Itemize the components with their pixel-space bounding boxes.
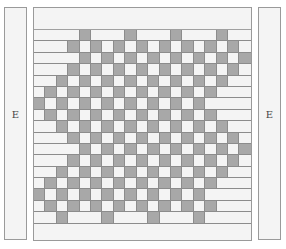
float-bar [205, 212, 251, 222]
white-cell [182, 189, 193, 199]
grey-cell [80, 121, 91, 131]
left-panel-label: E [5, 109, 26, 120]
grey-cell [68, 201, 79, 211]
grey-cell [91, 41, 102, 51]
white-cell [205, 76, 216, 86]
pattern-row [34, 121, 251, 132]
grey-cell [34, 189, 45, 199]
grey-cell [125, 189, 136, 199]
grey-cell [114, 64, 125, 74]
white-cell [125, 41, 136, 51]
white-cell [34, 178, 45, 188]
grey-cell [205, 201, 216, 211]
white-cell [171, 64, 182, 74]
right-panel-label: E [259, 109, 280, 120]
grey-cell [125, 98, 136, 108]
grey-cell [182, 87, 193, 97]
white-cell [171, 87, 182, 97]
white-cell [102, 64, 113, 74]
white-cell [171, 155, 182, 165]
white-cell [148, 133, 159, 143]
grey-cell [91, 201, 102, 211]
white-cell [194, 201, 205, 211]
float-bar [228, 30, 251, 40]
grey-cell [114, 155, 125, 165]
float-bar [34, 64, 68, 74]
white-cell [102, 87, 113, 97]
white-cell [114, 167, 125, 177]
float-bar [114, 212, 148, 222]
grey-cell [102, 76, 113, 86]
white-cell [114, 98, 125, 108]
grey-cell [137, 64, 148, 74]
white-cell [205, 53, 216, 63]
weave-pattern-panel [33, 7, 252, 241]
float-bar [34, 76, 57, 86]
white-cell [34, 87, 45, 97]
grey-cell [57, 98, 68, 108]
float-bar [228, 167, 251, 177]
float-bar [34, 212, 57, 222]
white-cell [148, 41, 159, 51]
grey-cell [57, 167, 68, 177]
white-cell [80, 155, 91, 165]
grey-cell [159, 201, 170, 211]
white-cell [205, 167, 216, 177]
white-cell [114, 53, 125, 63]
white-cell [125, 64, 136, 74]
white-cell [239, 64, 250, 74]
white-cell [159, 76, 170, 86]
grey-cell [194, 76, 205, 86]
grey-cell [182, 64, 193, 74]
grey-cell [205, 64, 216, 74]
white-cell [125, 110, 136, 120]
grey-cell [160, 41, 171, 51]
white-cell [91, 189, 102, 199]
white-cell [137, 98, 148, 108]
white-cell [137, 167, 148, 177]
white-cell [159, 189, 170, 199]
grey-cell [148, 98, 159, 108]
grey-cell [137, 133, 148, 143]
float-bar [217, 201, 251, 211]
white-cell [34, 201, 45, 211]
white-cell [91, 167, 102, 177]
grey-cell [114, 201, 125, 211]
grey-cell [57, 189, 68, 199]
white-cell [160, 144, 171, 154]
white-cell [182, 144, 193, 154]
grey-cell [80, 189, 91, 199]
float-bar [228, 76, 251, 86]
grey-cell [228, 64, 239, 74]
left-side-panel: E [4, 7, 27, 240]
float-bar [228, 121, 251, 131]
float-bar [137, 30, 171, 40]
grey-cell [205, 155, 216, 165]
white-cell [114, 76, 125, 86]
white-cell [159, 98, 170, 108]
white-cell [159, 121, 170, 131]
float-bar [34, 41, 68, 51]
pattern-row [34, 41, 251, 52]
white-cell [125, 133, 136, 143]
white-cell [148, 178, 159, 188]
white-cell [160, 53, 171, 63]
grey-cell [68, 155, 79, 165]
white-cell [45, 189, 56, 199]
grey-cell [114, 133, 125, 143]
float-bar [34, 144, 80, 154]
white-cell [68, 98, 79, 108]
grey-cell [171, 189, 182, 199]
grey-cell [114, 41, 125, 51]
white-cell [80, 41, 91, 51]
white-cell [80, 64, 91, 74]
grey-cell [182, 155, 193, 165]
grey-cell [148, 144, 159, 154]
white-cell [125, 155, 136, 165]
grey-cell [80, 53, 91, 63]
grey-cell [80, 30, 91, 40]
white-cell [217, 133, 228, 143]
pattern-row [34, 155, 251, 166]
float-bar [34, 30, 80, 40]
white-cell [68, 189, 79, 199]
